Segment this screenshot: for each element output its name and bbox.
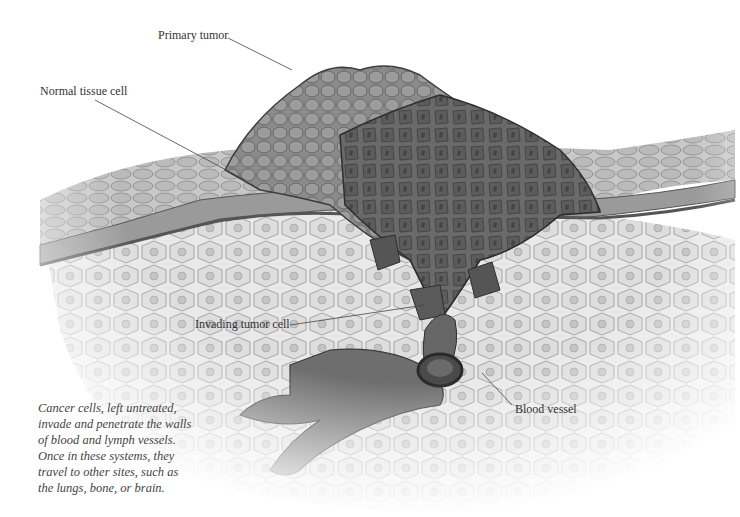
caption-line: Cancer cells, left untreated,	[38, 400, 258, 416]
caption-line: of blood and lymph vessels.	[38, 432, 258, 448]
label-blood-vessel: Blood vessel	[515, 402, 577, 417]
label-invading-tumor-cell: Invading tumor cell	[195, 317, 290, 332]
label-primary-tumor: Primary tumor	[158, 28, 228, 43]
label-normal-tissue-cell: Normal tissue cell	[40, 84, 127, 99]
caption-line: travel to other sites, such as	[38, 464, 258, 480]
caption-line: the lungs, bone, or brain.	[38, 480, 258, 496]
caption-line: Once in these systems, they	[38, 448, 258, 464]
figure-caption: Cancer cells, left untreated, invade and…	[38, 400, 258, 496]
caption-line: invade and penetrate the walls	[38, 416, 258, 432]
